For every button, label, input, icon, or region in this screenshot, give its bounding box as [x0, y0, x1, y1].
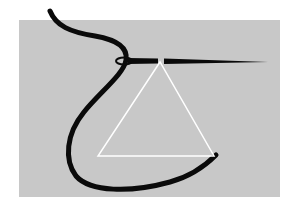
needle-icon	[128, 58, 158, 64]
needle-thread-illustration	[0, 0, 295, 209]
needle-tip-icon	[164, 59, 268, 65]
thread-icon	[50, 11, 216, 189]
